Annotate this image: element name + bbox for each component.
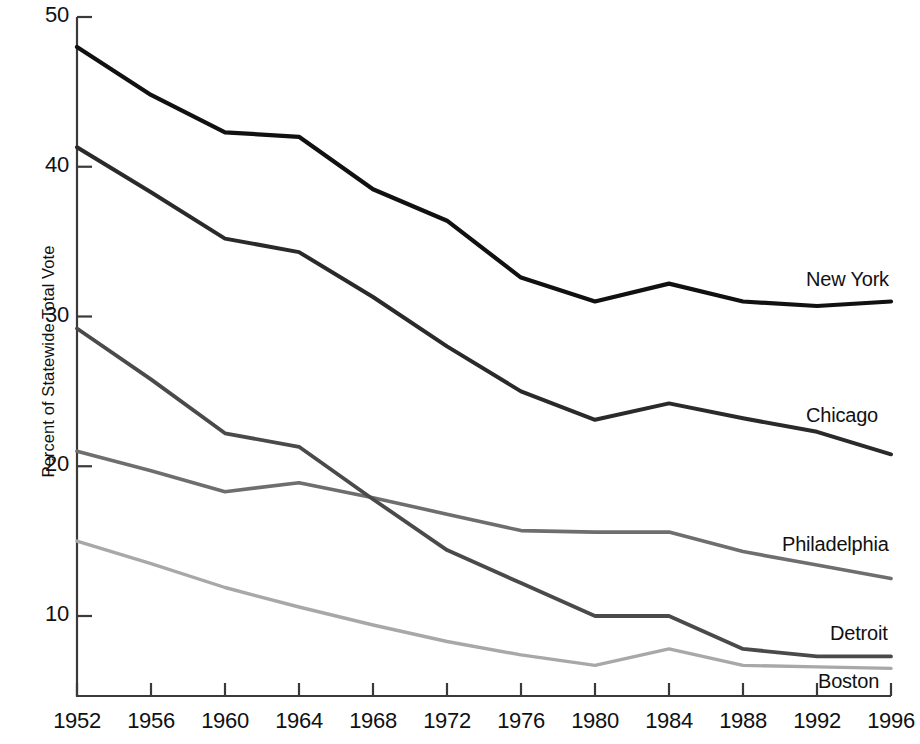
series-label-detroit: Detroit (830, 622, 888, 645)
plot-area (0, 0, 920, 744)
series-line-detroit (77, 329, 891, 657)
series-label-philadelphia: Philadelphia (782, 533, 889, 556)
series-line-new-york (77, 47, 891, 306)
line-chart: Percent of Statewide Total Vote 50403020… (0, 0, 920, 744)
series-label-new-york: New York (806, 268, 889, 291)
series-label-boston: Boston (818, 670, 879, 693)
series-line-chicago (77, 147, 891, 454)
series-label-chicago: Chicago (806, 404, 878, 427)
series-line-boston (77, 541, 891, 668)
series-line-philadelphia (77, 451, 891, 578)
